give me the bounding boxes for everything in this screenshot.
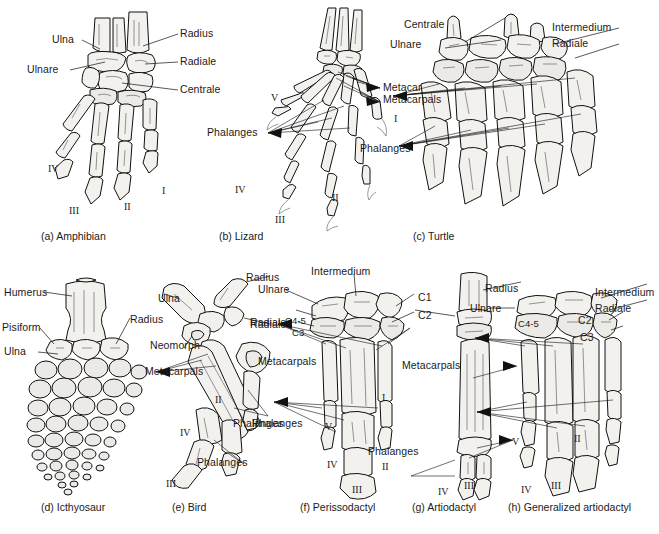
panel-f-label-carpal-4-5: C4-5 (285, 315, 306, 326)
panel-f-label-intermedium: Intermedium (311, 266, 370, 277)
panel-h-label-radiale: Radiale (595, 303, 631, 314)
panel-f-digit-iv: IV (327, 460, 338, 470)
panel-h-digit-ii: II (574, 434, 581, 444)
panel-a-label-ulna: Ulna (52, 34, 74, 45)
panel-c-caption: (c) Turtle (413, 231, 454, 242)
panel-b-digit-iii: III (275, 215, 285, 225)
panel-h-label-carpal-2: C2 (578, 315, 592, 326)
panel-c-label-metacarpals: Metacarpals (383, 94, 441, 105)
panel-a-digit-iii: III (69, 206, 79, 216)
panel-d-label-humerus: Humerus (4, 287, 47, 298)
panel-g-label-metacarpals: Metacarpals (402, 360, 460, 371)
panel-b-digit-i: I (394, 114, 397, 124)
panel-g-label-phalanges: Phalanges (368, 446, 419, 457)
panel-f-digit-v: V (325, 422, 332, 432)
panel-f-label-radiale: Radiale (250, 319, 286, 330)
panel-h-label-carpal-3: C3 (580, 332, 594, 343)
panel-h-digit-v: V (512, 437, 519, 447)
panel-c-label-radiale: Radiale (552, 38, 588, 49)
panel-a-digit-ii: II (124, 202, 131, 212)
panel-h-label-carpal-4-5: C4-5 (518, 318, 539, 329)
panel-g-digit-iv: IV (438, 487, 449, 497)
panel-f-digit-i: I (382, 393, 385, 403)
panel-f-label-metacarpals: Metacarpals (258, 356, 316, 367)
panel-g-digit-iii: III (464, 481, 474, 491)
panel-f-label-phalanges: Phalanges (252, 418, 303, 429)
panel-f-perissodactyl-drawing (292, 262, 432, 500)
panel-b-digit-v: V (271, 93, 278, 103)
panel-h-digit-iv: IV (521, 485, 532, 495)
panel-b-label-phalanges: Phalanges (207, 127, 258, 138)
panel-b-caption: (b) Lizard (219, 231, 263, 242)
panel-d-label-pisiform: Pisiform (2, 322, 41, 333)
panel-e-digit-ii: II (215, 395, 222, 405)
panel-a-digit-iv: IV (48, 164, 59, 174)
panel-a-label-radiale: Radiale (180, 56, 216, 67)
panel-c-label-centrale: Centrale (404, 19, 445, 30)
panel-f-digit-iii: III (352, 485, 362, 495)
panel-e-label-phalanges-lower: Phalanges (197, 457, 248, 468)
panel-h-caption: (h) Generalized artiodactyl (508, 502, 631, 513)
panel-h-digit-iii: III (551, 481, 561, 491)
comparative-anatomy-figure: Ulna Radius Ulnare Radiale Centrale IV I… (0, 0, 659, 534)
panel-b-digit-iv: IV (235, 185, 246, 195)
panel-e-label-metacarpals: Metacarpals (145, 366, 203, 377)
panel-c-label-intermedium: Intermedium (552, 22, 611, 33)
panel-e-digit-iii: III (166, 479, 176, 489)
panel-g-caption: (g) Artiodactyl (412, 502, 476, 513)
panel-a-digit-i: I (162, 186, 165, 196)
panel-f-label-ulnare: Ulnare (258, 284, 290, 295)
panel-e-digit-iv: IV (180, 428, 191, 438)
panel-c-turtle-drawing (405, 0, 659, 235)
panel-f-caption: (f) Perissodactyl (300, 502, 375, 513)
panel-a-label-radius: Radius (180, 28, 213, 39)
panel-e-label-ulna: Ulna (158, 293, 180, 304)
panel-a-label-centrale: Centrale (180, 84, 221, 95)
panel-c-label-phalanges: Phalanges (360, 143, 411, 154)
panel-b-digit-ii: II (332, 193, 339, 203)
panel-f-label-carpal-3: C3 (292, 327, 304, 338)
panel-a-label-ulnare: Ulnare (27, 64, 59, 75)
panel-c-label-ulnare: Ulnare (390, 39, 422, 50)
panel-e-caption: (e) Bird (172, 502, 206, 513)
panel-a-caption: (a) Amphibian (41, 231, 106, 242)
panel-d-caption: (d) Icthyosaur (41, 502, 105, 513)
panel-g-label-ulnare: Ulnare (470, 303, 502, 314)
panel-b-lizard-drawing (220, 0, 420, 235)
panel-e-label-neomorph: Neomorph (150, 340, 200, 351)
panel-e-label-radius: Radius (246, 272, 279, 283)
panel-d-label-ulna: Ulna (4, 346, 26, 357)
panel-h-label-intermedium: Intermedium (595, 287, 654, 298)
panel-f-digit-ii: II (382, 462, 389, 472)
